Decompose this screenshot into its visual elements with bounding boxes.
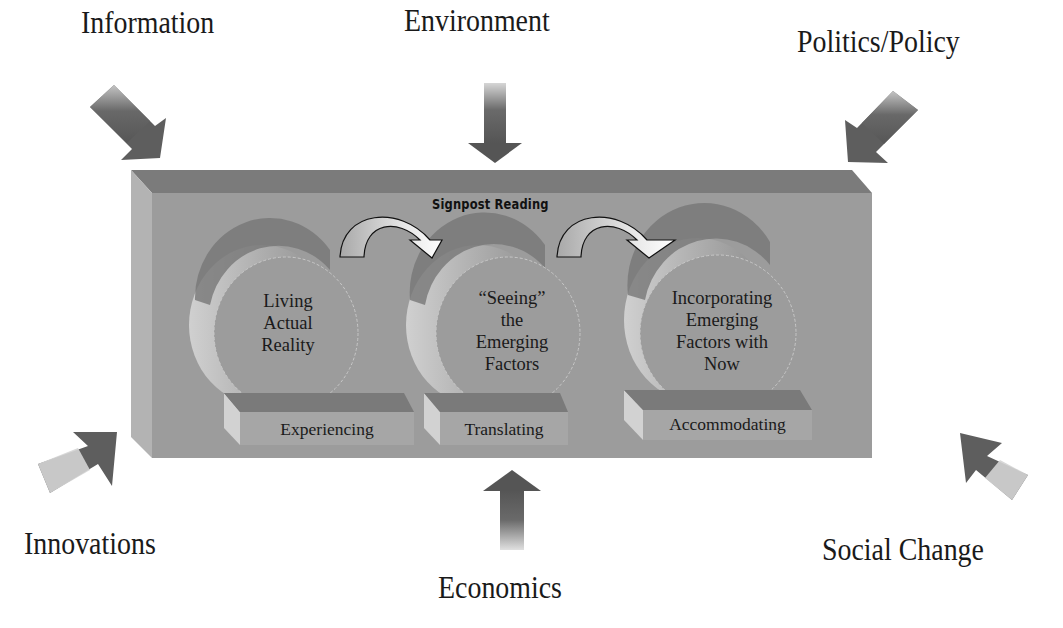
label-environment: Environment [404, 3, 550, 39]
text-line: Factors with [652, 331, 792, 353]
text-line: “Seeing” [447, 287, 577, 309]
stage-1-text: Living Actual Reality [223, 290, 353, 356]
stage-2-text: “Seeing” the Emerging Factors [447, 287, 577, 375]
label-social-change: Social Change [822, 532, 984, 568]
arrow-politics-policy-icon [845, 91, 918, 163]
label-information: Information [81, 5, 214, 41]
text-line: Emerging [652, 309, 792, 331]
text-line: Emerging [447, 331, 577, 353]
label-innovations: Innovations [24, 526, 156, 562]
arrow-social-change-icon [960, 433, 1028, 500]
text-line: the [447, 309, 577, 331]
panel-top-face [131, 170, 872, 193]
base-label-translating: Translating [440, 419, 568, 440]
panel-side-face [131, 170, 152, 458]
diagram-title: Signpost Reading [432, 196, 549, 212]
label-economics: Economics [438, 570, 562, 606]
arrow-environment-icon [468, 83, 522, 163]
text-line: Reality [223, 334, 353, 356]
label-politics-policy: Politics/Policy [797, 24, 960, 60]
arrow-economics-icon [483, 470, 541, 550]
text-line: Actual [223, 312, 353, 334]
arrow-information-icon [90, 85, 166, 160]
text-line: Now [652, 353, 792, 375]
base-label-accommodating: Accommodating [643, 414, 812, 435]
stage-3-text: Incorporating Emerging Factors with Now [652, 287, 792, 375]
text-line: Living [223, 290, 353, 312]
arrow-innovations-icon [38, 432, 117, 493]
text-line: Factors [447, 353, 577, 375]
base-label-experiencing: Experiencing [240, 419, 414, 440]
text-line: Incorporating [652, 287, 792, 309]
